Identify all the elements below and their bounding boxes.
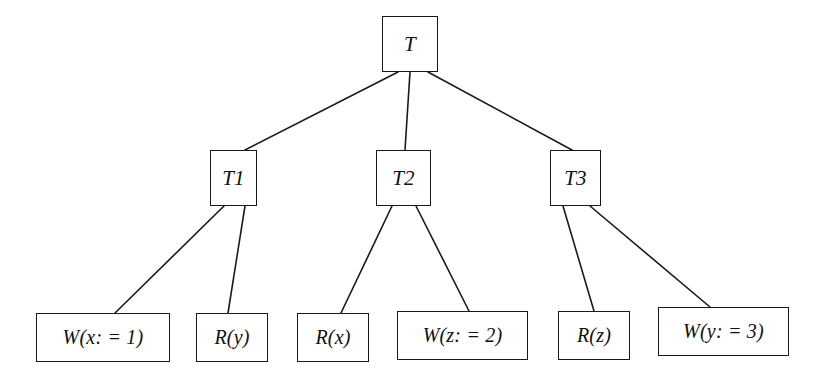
node-label: T3 [564, 166, 587, 191]
operation-node-l3[interactable]: R(x) [297, 313, 369, 362]
node-label: T2 [392, 166, 415, 191]
operation-node-l5[interactable]: R(z) [558, 311, 630, 360]
tree-edge-t-t1 [245, 72, 398, 150]
tree-edge-t1-l2 [228, 206, 245, 313]
node-label: W(z: = 2) [423, 324, 503, 347]
transaction-node-t1[interactable]: T1 [210, 150, 257, 206]
tree-edge-t1-l1 [115, 206, 224, 313]
operation-node-l6[interactable]: W(y: = 3) [658, 307, 789, 356]
tree-edge-t2-l3 [341, 206, 392, 313]
node-label: R(y) [214, 326, 249, 349]
tree-edge-t2-l4 [416, 206, 469, 311]
node-label: T [404, 32, 416, 57]
tree-edge-t3-l6 [590, 206, 710, 307]
node-label: W(x: = 1) [63, 326, 144, 349]
node-label: W(y: = 3) [683, 320, 764, 343]
tree-edge-t-t3 [428, 72, 572, 150]
transaction-node-t2[interactable]: T2 [376, 150, 431, 206]
operation-node-l2[interactable]: R(y) [196, 313, 268, 362]
node-label: T1 [222, 166, 245, 191]
tree-edge-t-t2 [405, 72, 410, 150]
node-label: R(z) [577, 324, 611, 347]
operation-node-l1[interactable]: W(x: = 1) [36, 313, 170, 362]
operation-node-l4[interactable]: W(z: = 2) [397, 311, 528, 360]
node-label: R(x) [315, 326, 350, 349]
tree-edge-t3-l5 [563, 206, 594, 311]
transaction-node-t[interactable]: T [382, 16, 438, 72]
transaction-node-t3[interactable]: T3 [550, 150, 601, 206]
transaction-tree-diagram: TT1T2T3W(x: = 1)R(y)R(x)W(z: = 2)R(z)W(y… [0, 0, 814, 379]
